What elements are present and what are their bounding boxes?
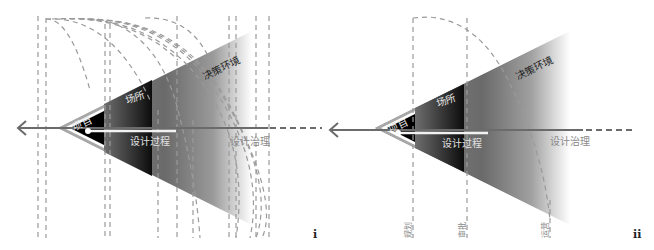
panel-i: 项目 场所 设计过程 决策环境 设计治理 i — [0, 0, 327, 250]
panel-tag-i: i — [313, 228, 317, 241]
stage-label-2: 审批 — [457, 222, 467, 238]
governance-diagram-ii: 项目 场所 设计过程 决策环境 设计治理 规划 审批 运营 — [318, 0, 654, 250]
design-process-label: 设计过程 — [130, 135, 170, 147]
governance-diagram-i: 项目 场所 设计过程 决策环境 设计治理 — [0, 0, 327, 250]
design-governance-label: 设计治理 — [230, 135, 270, 147]
panel-ii: 项目 场所 设计过程 决策环境 设计治理 规划 审批 运营 ii — [318, 0, 645, 250]
design-process-label: 设计过程 — [442, 137, 482, 149]
design-governance-label: 设计治理 — [550, 135, 590, 147]
stage-label-3: 运营 — [540, 222, 550, 238]
panel-tag-ii: ii — [633, 228, 641, 241]
stage-label-1: 规划 — [403, 222, 413, 238]
